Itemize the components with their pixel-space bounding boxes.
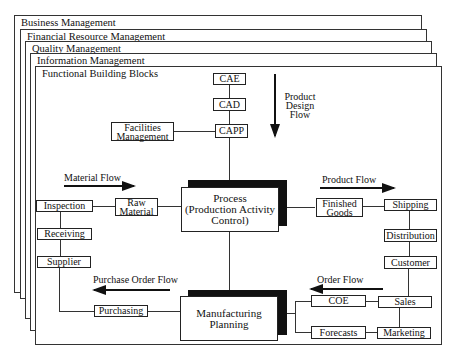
connector-shipping-distribution	[409, 211, 410, 229]
manufacturing-label-line2: Planning	[209, 319, 248, 330]
marketing-label: Marketing	[383, 328, 425, 338]
forecasts-box: Forecasts	[311, 326, 366, 339]
distribution-box: Distribution	[384, 229, 437, 242]
receiving-label: Receiving	[44, 229, 85, 239]
connector-coe-sales	[366, 301, 378, 302]
cad-box: CAD	[213, 98, 246, 111]
customer-label: Customer	[391, 258, 430, 268]
inspection-label: Inspection	[44, 201, 86, 211]
material-flow-label: Material Flow	[64, 173, 121, 183]
connector-cae-cad	[229, 84, 230, 98]
supplier-box: Supplier	[37, 256, 91, 268]
facilities-management-box: Facilities Management	[111, 122, 174, 141]
connector-customer-sales	[408, 269, 409, 296]
cae-label: CAE	[220, 74, 240, 84]
connector-raw-process	[158, 206, 181, 207]
connector-branch-forecasts	[295, 332, 311, 333]
finished-label-line2: Goods	[326, 208, 352, 217]
product-flow-label: Product Flow	[322, 175, 376, 185]
shipping-label: Shipping	[392, 200, 428, 210]
order-flow-label: Order Flow	[317, 275, 363, 285]
cad-label: CAD	[219, 100, 240, 110]
finished-goods-box: Finished Goods	[316, 198, 363, 217]
supplier-label: Supplier	[47, 257, 81, 267]
connector-purchasing-manufacturing	[148, 311, 180, 312]
connector-distribution-customer	[409, 242, 410, 256]
marketing-box: Marketing	[377, 327, 431, 339]
layer-title: Functional Building Blocks	[42, 67, 158, 80]
connector-cad-capp	[229, 110, 230, 124]
connector-process-manufacturing	[229, 232, 230, 296]
connector-supplier-down	[59, 268, 60, 312]
purchasing-label: Purchasing	[99, 306, 143, 316]
manufacturing-label-line1: Manufacturing	[196, 308, 261, 319]
capp-label: CAPP	[219, 126, 244, 136]
sales-label: Sales	[394, 297, 415, 307]
cae-box: CAE	[213, 73, 246, 85]
connector-branch-vertical	[295, 301, 296, 332]
connector-forecasts-marketing	[366, 332, 377, 333]
shipping-box: Shipping	[384, 199, 437, 211]
capp-box: CAPP	[215, 124, 248, 138]
product-design-flow-label: Product Design Flow	[280, 92, 320, 119]
connector-supplier-purchasing	[59, 311, 94, 312]
manufacturing-planning-box: Manufacturing Planning	[180, 296, 278, 341]
connector-sales-marketing	[399, 308, 400, 327]
coe-box: COE	[311, 295, 366, 307]
sales-box: Sales	[378, 296, 432, 308]
purchasing-box: Purchasing	[94, 305, 148, 317]
forecasts-label: Forecasts	[320, 328, 358, 338]
purchase-order-flow-label: Purchase Order Flow	[93, 275, 178, 285]
coe-label: COE	[329, 296, 349, 306]
connector-inspection-raw	[93, 206, 115, 207]
product-flow-arrow	[320, 187, 394, 189]
process-label-line3: Control)	[211, 215, 248, 226]
connector-branch-coe	[295, 301, 311, 302]
layer-title: Business Management	[21, 16, 116, 29]
product-design-flow-arrow	[274, 74, 276, 136]
connector-finished-shipping	[363, 206, 384, 207]
order-flow-arrow	[311, 288, 383, 290]
customer-box: Customer	[384, 256, 437, 269]
purchase-order-flow-arrow	[94, 289, 170, 291]
facilities-label-line2: Management	[116, 132, 168, 141]
raw-label-line2: Material	[120, 207, 154, 216]
material-flow-arrow	[64, 185, 134, 187]
process-box: Process (Production Activity Control)	[181, 187, 279, 232]
connector-inspection-receiving	[60, 212, 61, 228]
connector-facilities-capp	[174, 131, 215, 132]
receiving-box: Receiving	[37, 228, 92, 240]
inspection-box: Inspection	[36, 200, 93, 212]
flow-label-line: Flow	[280, 110, 320, 119]
raw-material-box: Raw Material	[115, 198, 158, 216]
distribution-label: Distribution	[386, 231, 434, 241]
diagram-canvas: Business Management Financial Resource M…	[0, 0, 458, 355]
connector-receiving-supplier	[60, 240, 61, 256]
